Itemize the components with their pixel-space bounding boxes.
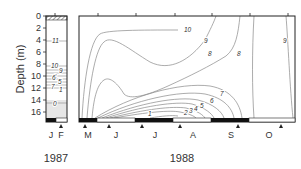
contour-label-3: 3 [189, 107, 193, 114]
month-label: F [58, 130, 64, 140]
month-label: S [228, 130, 234, 140]
time-bar-1987 [46, 118, 56, 122]
panel-1988: 10 9 8 8 9 7 6 5 4 3 2 1 [79, 13, 295, 164]
y-tick-labels: 0 2 4 6 8 10 12 14 16 [31, 11, 41, 117]
ice-cover-hatch [46, 16, 67, 20]
contour-label-9: 9 [204, 37, 208, 44]
contour-label-8-vertical: 8 [237, 50, 241, 57]
year-label: 1988 [170, 152, 194, 164]
y-tick: 16 [31, 107, 41, 117]
contour-label: 11 [52, 37, 59, 44]
month-label: O [265, 130, 272, 140]
month-label: M [84, 130, 92, 140]
contour-label: 9 [59, 67, 63, 74]
y-tick: 8 [36, 59, 41, 69]
contour-label: 5 [58, 78, 62, 85]
y-tick: 6 [36, 47, 41, 57]
panel-1987: 11 10 9 8 6 5 7 1 0 J F 1987 [44, 13, 68, 164]
y-tick: 14 [31, 95, 41, 105]
contour-label: 1 [59, 86, 63, 93]
contour-label-8: 8 [208, 50, 212, 57]
contours-1987 [46, 41, 67, 103]
month-labels-1988: M J J A S O [84, 130, 272, 140]
contour-label-10: 10 [184, 26, 192, 33]
sampling-marker [59, 124, 63, 128]
month-label: A [190, 130, 196, 140]
contour-label-9-right: 9 [283, 37, 287, 44]
contour-label: 10 [51, 62, 59, 69]
month-label: J [153, 130, 158, 140]
year-label: 1987 [44, 152, 68, 164]
month-label: J [114, 130, 119, 140]
contour-label: 6 [52, 74, 56, 81]
contour-label-6: 6 [210, 97, 214, 104]
contour-label-1: 1 [148, 110, 152, 117]
contour-labels-1987: 11 10 9 8 6 5 7 1 0 [51, 37, 63, 107]
y-tick: 4 [36, 35, 41, 45]
isopleth-chart: Depth (m) 0 2 4 6 8 10 12 14 16 [0, 0, 301, 169]
y-tick: 12 [31, 83, 41, 93]
contour-label-5: 5 [200, 102, 204, 109]
y-tick: 2 [36, 23, 41, 33]
contour-label: 0 [53, 100, 57, 107]
contour-label: 7 [51, 83, 55, 90]
contour-label-2: 2 [183, 109, 188, 116]
y-tick: 0 [36, 11, 41, 21]
sampling-markers [83, 124, 283, 128]
y-axis-label: Depth (m) [14, 45, 26, 94]
contour-label-4: 4 [194, 105, 198, 112]
contour-label-7: 7 [220, 90, 224, 97]
month-label: J [49, 130, 54, 140]
time-bar-1988 [79, 118, 295, 122]
y-tick: 10 [31, 71, 41, 81]
contour-labels-1988: 10 9 8 8 9 7 6 5 4 3 2 1 [148, 26, 287, 117]
